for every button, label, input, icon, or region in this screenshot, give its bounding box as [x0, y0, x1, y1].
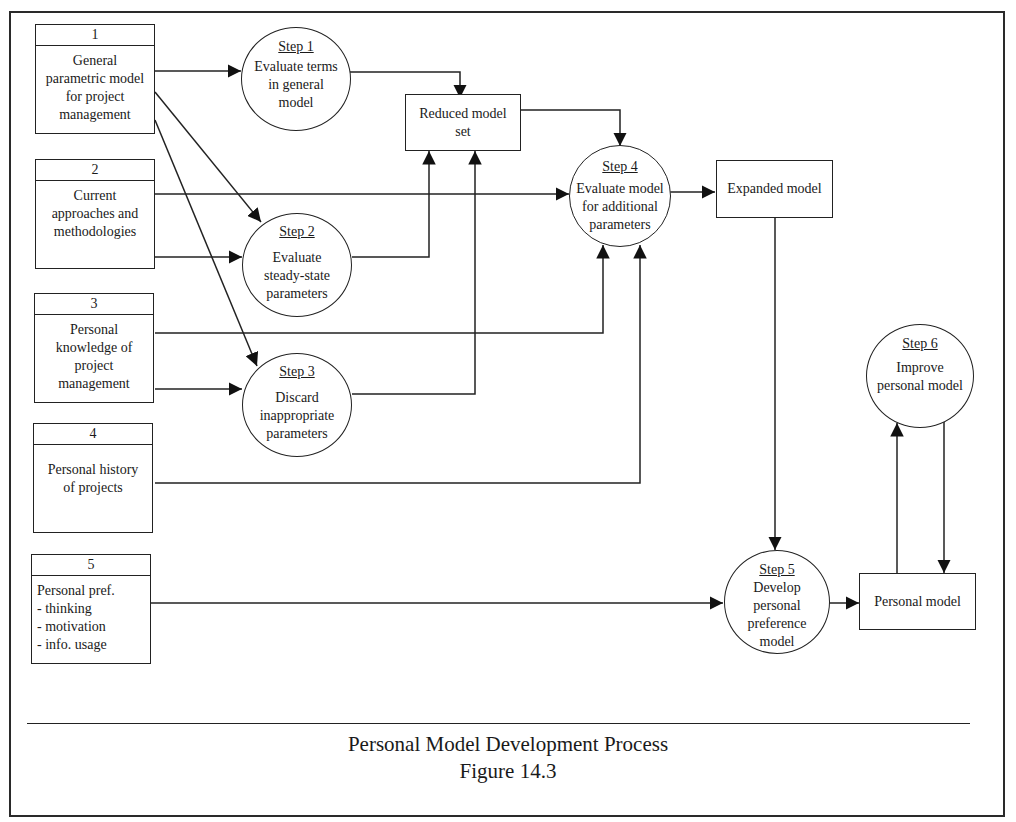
- step-4: Step 4 Evaluate model for additional par…: [569, 145, 671, 247]
- source-number: 2: [36, 160, 154, 181]
- step-title: Step 6: [867, 335, 973, 353]
- step-5: Step 5 Develop personal preference model: [724, 550, 830, 654]
- step-title: Step 3: [243, 363, 351, 381]
- figure-title: Personal Model Development Process: [0, 731, 1016, 758]
- source-number: 1: [36, 25, 154, 46]
- source-1: 1 General parametric model for project m…: [35, 24, 155, 134]
- reduced-model-set-box: Reduced model set: [405, 94, 521, 151]
- step-title: Step 2: [243, 223, 351, 241]
- step-3: Step 3 Discard inappropriate parameters: [242, 353, 352, 457]
- source-4: 4 Personal history of projects: [33, 423, 153, 533]
- step-title: Step 4: [570, 158, 670, 176]
- figure-caption: Personal Model Development Process Figur…: [0, 731, 1016, 785]
- source-label: General parametric model for project man…: [36, 46, 154, 124]
- source-2: 2 Current approaches and methodologies: [35, 159, 155, 269]
- source-number: 5: [32, 555, 150, 576]
- step-1: Step 1 Evaluate terms in general model: [241, 27, 351, 131]
- step-title: Step 1: [242, 38, 350, 56]
- source-number: 4: [34, 424, 152, 445]
- expanded-model-box: Expanded model: [716, 160, 833, 218]
- source-label: Current approaches and methodologies: [36, 181, 154, 241]
- source-5: 5 Personal pref. - thinking - motivation…: [31, 554, 151, 664]
- figure-number: Figure 14.3: [0, 758, 1016, 785]
- source-label: Personal history of projects: [34, 445, 152, 497]
- source-3: 3 Personal knowledge of project manageme…: [34, 293, 154, 403]
- personal-model-box: Personal model: [859, 573, 976, 630]
- source-number: 3: [35, 294, 153, 315]
- source-label: Personal knowledge of project management: [35, 315, 153, 393]
- step-6: Step 6 Improve personal model: [866, 324, 974, 428]
- step-2: Step 2 Evaluate steady-state parameters: [242, 213, 352, 317]
- step-title: Step 5: [725, 561, 829, 579]
- source-label: Personal pref. - thinking - motivation -…: [32, 576, 150, 654]
- caption-divider: [27, 723, 970, 724]
